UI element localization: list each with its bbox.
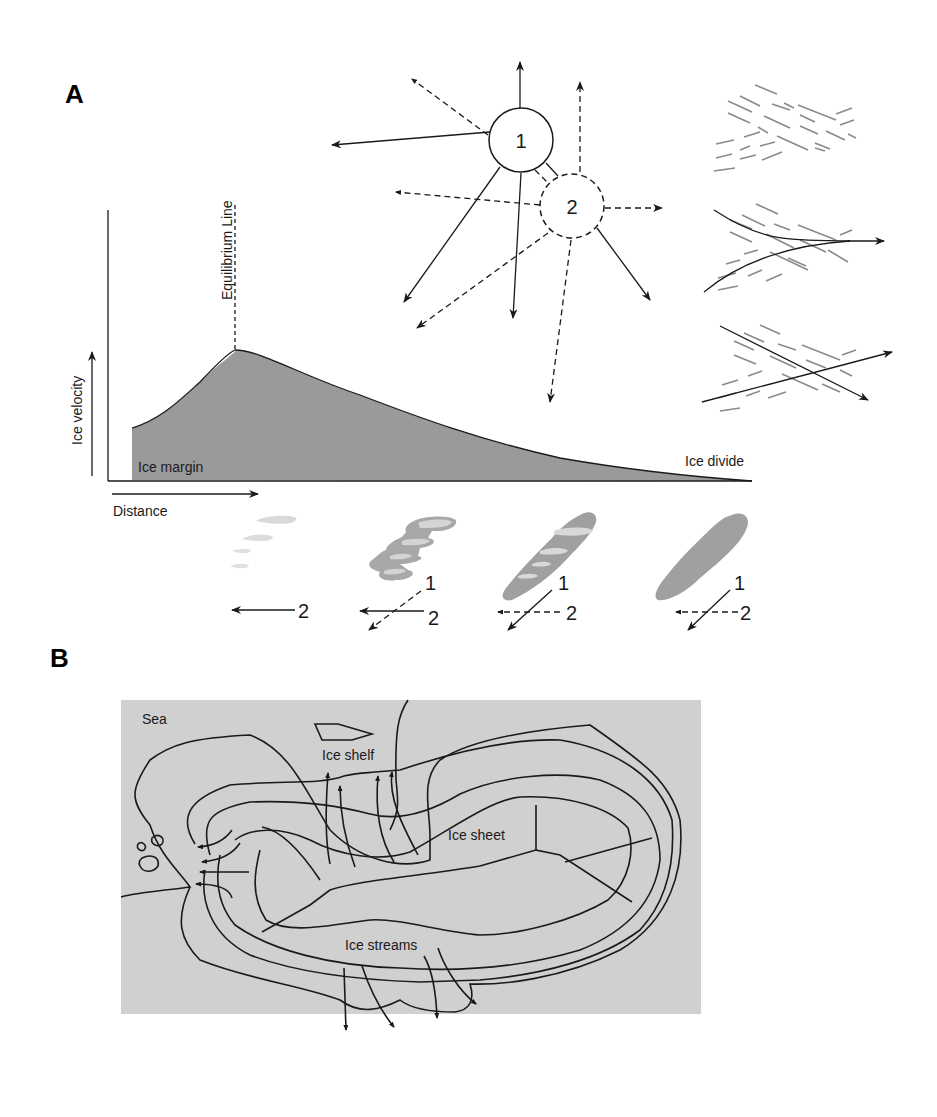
bedform-stage-4: 1 2 (656, 513, 752, 630)
flow-2-arrow-icon (417, 233, 548, 328)
figure-canvas: A Equilibrium Line Ice velocity Distance… (0, 0, 937, 1117)
flow-phase-2-label: 2 (566, 196, 577, 218)
flow-1-arrow-icon (597, 228, 650, 300)
flow-phase-1-label: 1 (515, 130, 526, 152)
ice-shelf-label: Ice shelf (322, 747, 374, 763)
ice-streams-label: Ice streams (345, 937, 417, 953)
stage-3-arrow-label-1: 1 (558, 572, 569, 594)
flow-2-arrow-icon (550, 240, 571, 402)
stage-2-arrow-label-1: 1 (425, 572, 436, 594)
stage-4-flow-1-arrow-icon (688, 590, 730, 630)
bedform-stage-1: 2 (230, 516, 309, 622)
flow-1-arrow-icon (404, 167, 500, 302)
fabric-converging (704, 204, 884, 292)
stage-4-arrow-label-1: 1 (734, 572, 745, 594)
stage-3-arrow-label-2: 2 (566, 602, 577, 624)
map-background (121, 700, 701, 1014)
crossing-flow-arrow-icon (720, 326, 868, 400)
fabric-diagrams (702, 85, 892, 411)
ice-margin-label: Ice margin (138, 459, 203, 475)
flow-1-connector (546, 163, 558, 176)
bedform-stage-3: 1 2 (498, 512, 596, 630)
ice-divide-label: Ice divide (685, 453, 744, 469)
panel-label-a: A (65, 79, 84, 109)
velocity-area (132, 350, 752, 481)
sea-label: Sea (142, 711, 167, 727)
bedform-stage-2: 1 2 (360, 516, 456, 630)
flow-2-connector (535, 170, 548, 183)
bedform-sequence: 2 1 2 1 2 (230, 512, 751, 630)
fabric-crossing (702, 325, 892, 411)
flow-2-arrow-icon (396, 192, 540, 205)
flow-1-arrow-icon (332, 132, 490, 145)
ice-sheet-label: Ice sheet (448, 827, 505, 843)
stage-2-arrow-label-2: 2 (428, 607, 439, 629)
equilibrium-line-label: Equilibrium Line (219, 200, 235, 300)
flow-direction-rose: 1 2 (332, 62, 662, 402)
flow-1-arrow-icon (513, 173, 521, 318)
stage-4-arrow-label-2: 2 (740, 602, 751, 624)
velocity-profile-chart: Equilibrium Line Ice velocity Distance I… (69, 200, 752, 519)
stage-1-arrow-label: 2 (298, 600, 309, 622)
fabric-random (714, 85, 856, 171)
crossing-flow-arrow-icon (702, 352, 892, 402)
flow-2-arrow-icon (412, 79, 488, 135)
panel-label-b: B (50, 643, 69, 673)
y-axis-label: Ice velocity (69, 376, 85, 445)
ice-sheet-map: Sea Ice shelf Ice sheet Ice streams (121, 700, 701, 1030)
x-axis-label: Distance (113, 503, 168, 519)
